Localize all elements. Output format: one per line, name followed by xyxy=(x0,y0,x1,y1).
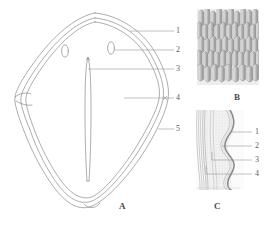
panel-letter-a: A xyxy=(119,202,126,211)
callout-c-1: 1 xyxy=(255,128,259,136)
callout-a-1: 1 xyxy=(176,27,180,35)
panel-letter-b: B xyxy=(234,93,240,102)
callout-a-4: 4 xyxy=(176,94,180,102)
figure-plate: 1 2 3 4 5 1 2 3 4 A B C xyxy=(0,0,271,225)
callout-a-3: 3 xyxy=(176,65,180,73)
text-layer: 1 2 3 4 5 1 2 3 4 A B C xyxy=(0,0,271,225)
panel-letter-c: C xyxy=(214,202,221,211)
callout-c-4: 4 xyxy=(255,170,259,178)
callout-c-3: 3 xyxy=(255,156,259,164)
callout-a-5: 5 xyxy=(176,125,180,133)
callout-a-2: 2 xyxy=(176,46,180,54)
callout-c-2: 2 xyxy=(255,142,259,150)
